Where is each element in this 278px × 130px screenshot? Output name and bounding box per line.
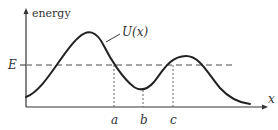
curve-label-leader xyxy=(106,34,120,42)
curve-label: U(x) xyxy=(122,25,149,39)
energy-level-label: E xyxy=(7,58,17,72)
potential-curve xyxy=(26,32,250,104)
y-axis-label: energy xyxy=(32,7,71,20)
turning-point-guides xyxy=(114,65,173,107)
potential-energy-diagram: energy U(x) E x a b c xyxy=(0,0,278,130)
turning-point-a-label: a xyxy=(111,113,118,127)
turning-point-c-label: c xyxy=(170,113,177,127)
x-axis-label: x xyxy=(268,92,275,106)
turning-point-b-label: b xyxy=(140,113,148,127)
y-axis-arrow-icon xyxy=(24,8,29,14)
